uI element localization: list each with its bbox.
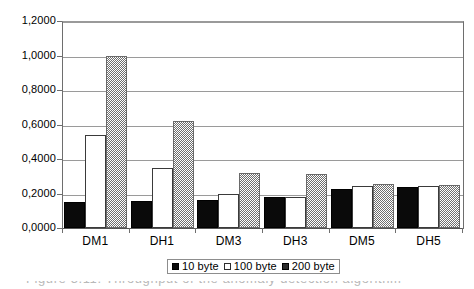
legend-swatch-icon	[172, 263, 179, 270]
category-label-dh5: DH5	[395, 234, 462, 248]
category-label-dm3: DM3	[195, 234, 262, 248]
bar-dm1-200-byte	[106, 56, 127, 229]
bar-dh5-100-byte	[418, 186, 439, 228]
y-axis-tick-label: 1,0000	[4, 50, 56, 61]
figure-caption-clipped: Figure 5.11. Throughput of the anomaly d…	[26, 281, 456, 289]
category-label-dh1: DH1	[129, 234, 196, 248]
y-axis-tick-label: 0,6000	[4, 119, 56, 130]
category-tick-mark	[462, 228, 463, 233]
bar-dh3-200-byte	[306, 174, 327, 229]
category-label-dm5: DM5	[329, 234, 396, 248]
y-axis-tick-label: 0,0000	[4, 222, 56, 233]
bar-dm5-10-byte	[331, 189, 352, 228]
y-axis-tick-label: 1,2000	[4, 15, 56, 26]
legend-entry-100-byte: 100 byte	[224, 261, 277, 272]
bar-group	[331, 21, 394, 228]
category-label-dh3: DH3	[262, 234, 329, 248]
category-tick-mark	[329, 228, 330, 233]
category-tick-mark	[129, 228, 130, 233]
category-tick-mark	[195, 228, 196, 233]
y-axis-tick-label: 0,2000	[4, 188, 56, 199]
bars-layer	[62, 21, 462, 228]
bar-dh5-200-byte	[439, 185, 460, 228]
bar-chart-figure: 0,00000,20000,40000,60000,80001,00001,20…	[0, 0, 474, 289]
bar-group	[197, 21, 260, 228]
bar-dm3-100-byte	[218, 194, 239, 228]
bar-group	[397, 21, 460, 228]
bar-dh3-10-byte	[264, 197, 285, 228]
bar-dm5-200-byte	[373, 184, 394, 228]
category-label-dm1: DM1	[62, 234, 129, 248]
y-axis-tick-label: 0,8000	[4, 84, 56, 95]
category-axis-labels: DM1DH1DM3DH3DM5DH5	[62, 234, 462, 250]
legend-swatch-icon	[224, 263, 231, 270]
bar-dh1-100-byte	[152, 168, 173, 228]
bar-dm1-10-byte	[64, 202, 85, 228]
bar-dm3-200-byte	[239, 173, 260, 228]
bar-dh1-10-byte	[131, 201, 152, 228]
category-tick-mark	[262, 228, 263, 233]
chart-legend: 10 byte100 byte200 byte	[167, 259, 340, 274]
y-axis: 0,00000,20000,40000,60000,80001,00001,20…	[0, 0, 56, 289]
legend-label: 10 byte	[182, 261, 219, 272]
bar-dh5-10-byte	[397, 187, 418, 228]
bar-dm3-10-byte	[197, 200, 218, 228]
legend-entry-10-byte: 10 byte	[172, 261, 219, 272]
bar-dh1-200-byte	[173, 121, 194, 228]
legend-swatch-icon	[282, 263, 289, 270]
category-tick-mark	[395, 228, 396, 233]
legend-entry-200-byte: 200 byte	[282, 261, 335, 272]
bar-group	[64, 21, 127, 228]
figure-caption-text: Figure 5.11. Throughput of the anomaly d…	[26, 281, 456, 285]
category-tick-mark	[62, 228, 63, 233]
y-axis-tick-label: 0,4000	[4, 153, 56, 164]
bar-dm1-100-byte	[85, 135, 106, 228]
legend-label: 100 byte	[234, 261, 277, 272]
legend-label: 200 byte	[292, 261, 335, 272]
bar-group	[264, 21, 327, 228]
bar-group	[131, 21, 194, 228]
bar-dh3-100-byte	[285, 197, 306, 228]
bar-dm5-100-byte	[352, 186, 373, 228]
